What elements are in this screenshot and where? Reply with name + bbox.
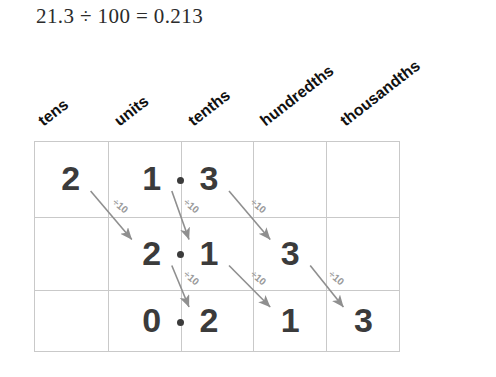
column-header-units: units [111,92,152,130]
digit-cell: 2 [51,161,91,195]
digit-cell: 3 [270,236,310,270]
column-header-hundredths: hundredths [257,62,337,130]
digit-cell: 3 [189,161,229,195]
decimal-point [177,319,184,326]
equation-title: 21.3 ÷ 100 = 0.213 [36,4,203,29]
grid-hline [35,217,399,218]
digit-cell: 1 [270,303,310,337]
column-header-tens: tens [35,96,72,130]
digit-cell: 1 [132,161,172,195]
grid-vline [253,142,254,351]
grid-vline [108,142,109,351]
digit-cell: 2 [189,303,229,337]
column-header-thousandths: thousandths [337,57,424,130]
grid-hline [35,290,399,291]
digit-cell: 1 [189,236,229,270]
digit-cell: 3 [343,303,383,337]
place-value-division-diagram: 21.3 ÷ 100 = 0.213 tensunitstenthshundre… [0,0,496,377]
column-header-tenths: tenths [185,86,234,130]
digit-cell: 2 [132,236,172,270]
grid-vline [326,142,327,351]
decimal-point [177,251,184,258]
digit-cell: 0 [132,303,172,337]
decimal-point [177,177,184,184]
